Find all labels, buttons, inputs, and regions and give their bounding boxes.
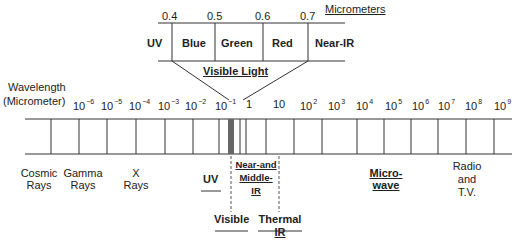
band-red: Red: [272, 37, 293, 49]
boundary-0-5: 0.5: [207, 10, 222, 22]
tick-label: 108: [465, 98, 482, 112]
region-radio-tv: RadioandT.V.: [443, 160, 491, 199]
tick-label: 10: [273, 98, 285, 110]
spectrum-diagram-lines: [0, 0, 514, 241]
tick-label: 109: [494, 98, 511, 112]
region-uv: UV: [203, 173, 218, 185]
tick-label: 10−3: [158, 98, 179, 112]
tick-label: 1: [246, 98, 252, 110]
region-x-rays: XRays: [116, 167, 156, 191]
axis-label-unit: (Micrometer): [3, 95, 65, 107]
region-microwave: Micro-wave: [362, 167, 410, 191]
tick-label: 106: [412, 98, 429, 112]
band-uv: UV: [147, 37, 162, 49]
boundary-0-7: 0.7: [300, 10, 315, 22]
visible-light-title: Visible Light: [203, 65, 268, 77]
region-gamma-rays: GammaRays: [60, 167, 106, 191]
tick-label: 105: [385, 98, 402, 112]
tick-label: 10−4: [129, 98, 150, 112]
region-visible: Visible: [214, 213, 249, 225]
tick-label: 107: [438, 98, 455, 112]
tick-label: 10−5: [101, 98, 122, 112]
band-near-ir: Near-IR: [315, 37, 354, 49]
boundary-0-4: 0.4: [162, 10, 177, 22]
band-green: Green: [221, 37, 253, 49]
tick-label: 103: [328, 98, 345, 112]
band-blue: Blue: [182, 37, 206, 49]
boundary-0-6: 0.6: [255, 10, 270, 22]
region-cosmic-rays: CosmicRays: [16, 167, 62, 191]
region-near-middle-ir: Near-and Middle- IR: [234, 158, 278, 197]
tick-label: 104: [356, 98, 373, 112]
tick-label: 10−2: [185, 98, 206, 112]
micrometers-unit-label: Micrometers: [325, 3, 386, 15]
tick-label: 10−6: [73, 98, 94, 112]
region-thermal-ir: Thermal IR: [255, 213, 305, 239]
tick-label: 102: [300, 98, 317, 112]
axis-label-wavelength: Wavelength: [8, 81, 66, 93]
tick-label: 10−1: [215, 98, 236, 112]
